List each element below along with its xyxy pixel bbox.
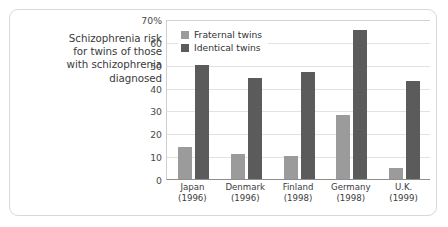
bar-group: [389, 20, 420, 179]
bar-identical-twins: [406, 81, 420, 179]
legend-item-identical: Identical twins: [181, 41, 262, 54]
bar-group: [336, 20, 367, 179]
y-axis-tick-label: 20: [132, 129, 162, 140]
bar-fraternal-twins: [284, 156, 298, 179]
x-axis-tick-label: Finland(1998): [272, 182, 325, 204]
x-axis-country: Japan: [166, 182, 219, 193]
bar-fraternal-twins: [336, 115, 350, 179]
bar-identical-twins: [353, 30, 367, 179]
x-axis-country: U.K.: [377, 182, 430, 193]
x-axis-tick-label: Denmark(1996): [219, 182, 272, 204]
x-axis-country: Germany: [324, 182, 377, 193]
figure-frame: Schizophrenia risk for twins of those wi…: [9, 9, 437, 216]
x-axis-tick-label: Germany(1998): [324, 182, 377, 204]
legend-label-fraternal: Fraternal twins: [194, 29, 262, 40]
legend-label-identical: Identical twins: [194, 42, 261, 53]
x-axis-year: (1999): [377, 193, 430, 204]
x-axis-year: (1998): [324, 193, 377, 204]
x-axis-year: (1996): [219, 193, 272, 204]
y-axis-tick-labels: 70%6050403020100: [132, 20, 162, 180]
bar-identical-twins: [248, 78, 262, 179]
bar-fraternal-twins: [178, 147, 192, 179]
x-axis-tick-label: U.K.(1999): [377, 182, 430, 204]
x-axis-tick-labels: Japan(1996)Denmark(1996)Finland(1998)Ger…: [166, 182, 430, 208]
bar-fraternal-twins: [389, 168, 403, 179]
x-axis-country: Denmark: [219, 182, 272, 193]
y-axis-tick-label: 30: [132, 106, 162, 117]
x-axis-year: (1996): [166, 193, 219, 204]
square-swatch-icon: [181, 31, 189, 39]
y-axis-tick-label: 0: [132, 175, 162, 186]
bar-group: [284, 20, 315, 179]
legend-item-fraternal: Fraternal twins: [181, 28, 262, 41]
y-axis-tick-label: 70%: [132, 15, 162, 26]
bar-chart: 70%6050403020100 Japan(1996)Denmark(1996…: [166, 20, 430, 206]
bar-fraternal-twins: [231, 154, 245, 179]
bar-identical-twins: [195, 65, 209, 179]
y-axis-tick-label: 40: [132, 83, 162, 94]
x-axis-year: (1998): [272, 193, 325, 204]
x-axis-tick-label: Japan(1996): [166, 182, 219, 204]
y-axis-tick-label: 10: [132, 152, 162, 163]
bar-identical-twins: [301, 72, 315, 179]
square-swatch-icon: [181, 44, 189, 52]
chart-legend: Fraternal twins Identical twins: [178, 25, 268, 57]
y-axis-tick-label: 60: [132, 37, 162, 48]
x-axis-country: Finland: [272, 182, 325, 193]
y-axis-tick-label: 50: [132, 60, 162, 71]
